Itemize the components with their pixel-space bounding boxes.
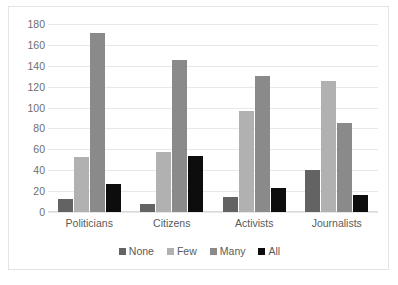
bars-layer bbox=[48, 24, 378, 212]
legend-swatch-icon bbox=[119, 248, 126, 255]
bar-politicians-none bbox=[58, 199, 73, 212]
chart-container: 180160140120100806040200 PoliticiansCiti… bbox=[8, 6, 389, 270]
y-axis-tick-label: 0 bbox=[13, 207, 45, 217]
bar-citizens-all bbox=[188, 156, 203, 212]
chart-legend: NoneFewManyAll bbox=[9, 246, 390, 257]
bar-journalists-none bbox=[305, 170, 320, 212]
legend-label: None bbox=[129, 246, 154, 257]
bar-activists-few bbox=[239, 111, 254, 212]
y-axis-tick-label: 20 bbox=[13, 186, 45, 196]
bar-journalists-few bbox=[321, 81, 336, 212]
legend-swatch-icon bbox=[258, 248, 265, 255]
y-axis-tick-label: 60 bbox=[13, 144, 45, 154]
y-axis: 180160140120100806040200 bbox=[9, 24, 45, 212]
bar-politicians-many bbox=[90, 33, 105, 212]
legend-item-many[interactable]: Many bbox=[210, 246, 246, 257]
bar-group-journalists bbox=[296, 24, 379, 212]
legend-swatch-icon bbox=[210, 248, 217, 255]
y-axis-tick-label: 180 bbox=[13, 19, 45, 29]
x-axis-label-activists: Activists bbox=[213, 217, 296, 229]
y-axis-tick-label: 80 bbox=[13, 123, 45, 133]
bar-group-citizens bbox=[131, 24, 214, 212]
bar-group-activists bbox=[213, 24, 296, 212]
y-axis-tick-label: 140 bbox=[13, 61, 45, 71]
legend-item-all[interactable]: All bbox=[258, 246, 280, 257]
gridline bbox=[48, 212, 378, 213]
legend-label: All bbox=[268, 246, 280, 257]
x-axis: PoliticiansCitizensActivistsJournalists bbox=[48, 217, 378, 229]
y-axis-tick-label: 120 bbox=[13, 82, 45, 92]
bar-group-politicians bbox=[48, 24, 131, 212]
bar-journalists-all bbox=[353, 195, 368, 212]
legend-label: Few bbox=[177, 246, 197, 257]
legend-item-few[interactable]: Few bbox=[167, 246, 197, 257]
legend-label: Many bbox=[220, 246, 246, 257]
bar-citizens-none bbox=[140, 204, 155, 212]
bar-activists-all bbox=[271, 188, 286, 212]
bar-journalists-many bbox=[337, 123, 352, 212]
legend-item-none[interactable]: None bbox=[119, 246, 154, 257]
x-axis-label-politicians: Politicians bbox=[48, 217, 131, 229]
legend-swatch-icon bbox=[167, 248, 174, 255]
y-axis-tick-label: 100 bbox=[13, 103, 45, 113]
x-axis-label-journalists: Journalists bbox=[296, 217, 379, 229]
bar-citizens-few bbox=[156, 152, 171, 212]
bar-citizens-many bbox=[172, 60, 187, 212]
bar-activists-none bbox=[223, 197, 238, 212]
bar-politicians-few bbox=[74, 157, 89, 212]
bar-politicians-all bbox=[106, 184, 121, 212]
y-axis-tick-label: 160 bbox=[13, 40, 45, 50]
bar-activists-many bbox=[255, 76, 270, 212]
x-axis-label-citizens: Citizens bbox=[131, 217, 214, 229]
y-axis-tick-label: 40 bbox=[13, 165, 45, 175]
